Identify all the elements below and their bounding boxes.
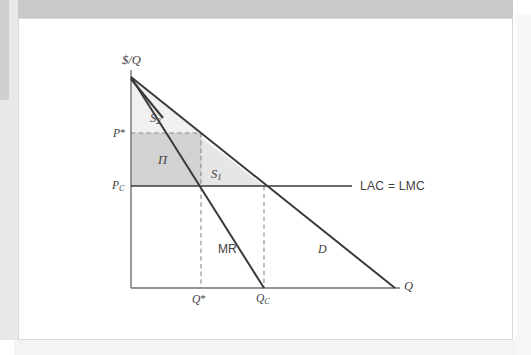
price-label-p-c-mark: C <box>119 184 125 193</box>
region-label-s1-mark: 1 <box>217 172 222 182</box>
region-label-s2: S2 <box>150 112 161 126</box>
price-label-p-c: PC <box>112 180 125 193</box>
marginal-revenue-label: MR <box>218 243 237 255</box>
demand-label: D <box>318 243 327 255</box>
x-axis-label: Q <box>404 280 413 293</box>
region-label-producer-surplus: Π <box>158 154 167 167</box>
quantity-label-q-c-mark: C <box>264 297 270 306</box>
quantity-label-q-star: Q* <box>192 293 206 305</box>
quantity-label-q-c: QC <box>256 293 270 306</box>
y-axis-label: $/Q <box>122 54 141 67</box>
price-label-p-c-base: P <box>112 179 119 191</box>
region-label-s2-mark: 2 <box>156 116 161 126</box>
region-label-s1: S1 <box>211 168 222 182</box>
price-label-p-star: P* <box>113 127 125 139</box>
price-label-p-star-mark: * <box>120 126 125 138</box>
price-label-p-star-base: P <box>113 127 120 139</box>
quantity-label-q-star-mark: * <box>200 292 205 304</box>
economics-figure: $/Q Q P* PC Q* QC MR D LAC = LMC Π S1 S2 <box>0 0 531 355</box>
lac-lmc-label: LAC = LMC <box>360 180 425 192</box>
